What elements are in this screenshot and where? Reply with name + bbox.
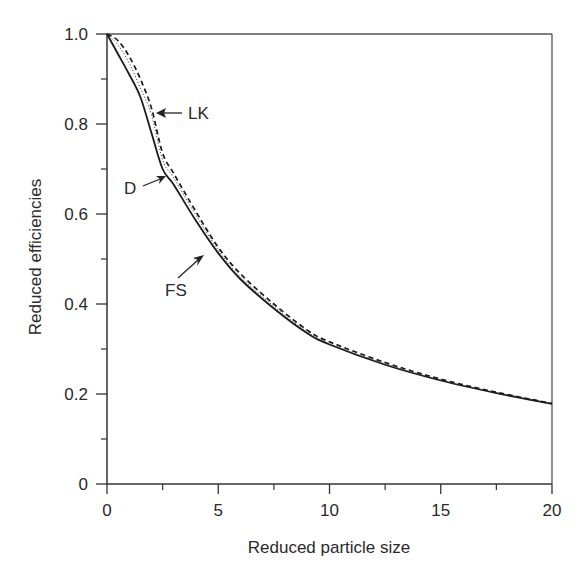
annotation-lk: LK xyxy=(156,104,209,123)
x-tick-label: 5 xyxy=(214,501,223,520)
y-axis-label: Reduced efficiencies xyxy=(26,179,45,336)
series-d-line xyxy=(107,34,552,404)
series-fs-line xyxy=(107,34,552,404)
arrow-d xyxy=(143,179,160,186)
label-d: D xyxy=(124,179,136,198)
y-tick-label: 0.2 xyxy=(64,385,88,404)
label-fs: FS xyxy=(165,281,187,300)
arrow-fs xyxy=(178,260,198,278)
chart: 05101520 00.20.40.60.81.0 LK D FS Reduce… xyxy=(0,0,588,580)
annotation-d: D xyxy=(124,176,166,198)
y-ticks: 00.20.40.60.81.0 xyxy=(64,25,107,494)
x-ticks: 05101520 xyxy=(102,484,561,520)
annotation-fs: FS xyxy=(165,255,204,300)
plot-frame xyxy=(107,34,552,484)
x-tick-label: 10 xyxy=(320,501,339,520)
y-tick-label: 0 xyxy=(79,475,88,494)
label-lk: LK xyxy=(188,104,209,123)
x-tick-label: 20 xyxy=(543,501,562,520)
y-tick-label: 0.6 xyxy=(64,205,88,224)
x-tick-label: 0 xyxy=(102,501,111,520)
y-tick-label: 0.8 xyxy=(64,115,88,134)
x-tick-label: 15 xyxy=(431,501,450,520)
y-tick-label: 1.0 xyxy=(64,25,88,44)
y-tick-label: 0.4 xyxy=(64,295,88,314)
x-axis-label: Reduced particle size xyxy=(248,538,411,557)
series-lk-line xyxy=(107,34,552,403)
series-layer xyxy=(107,34,552,404)
arrowhead-icon xyxy=(193,255,204,266)
